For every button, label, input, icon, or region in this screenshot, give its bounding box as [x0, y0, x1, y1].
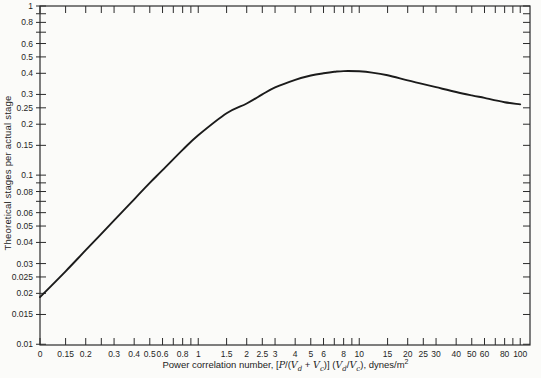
x-axis-title-text: + — [302, 359, 313, 370]
y-tick-label: 0.04 — [16, 237, 33, 247]
x-axis-title-text: ), dynes/m — [360, 359, 404, 370]
plot-svg: 00.150.20.30.40.50.60.811.522.5345681015… — [0, 0, 541, 378]
y-tick-label: 0.2 — [21, 119, 33, 129]
y-tick-label: 1 — [28, 1, 33, 11]
y-tick-label: 0.15 — [16, 140, 33, 150]
y-tick-label: 0.5 — [21, 52, 33, 62]
symbol-Vc: V — [313, 359, 320, 370]
y-tick-label: 0.6 — [21, 39, 33, 49]
superscript-2: 2 — [405, 358, 409, 365]
curve-line — [40, 71, 520, 297]
plot-frame — [40, 6, 530, 345]
y-tick-label: 0.1 — [21, 170, 33, 180]
x-axis-title: Power correlation number, [P/(Vd + Vc)] … — [30, 358, 541, 373]
y-tick-label: 0.4 — [21, 68, 33, 78]
symbol-Vd: V — [291, 359, 298, 370]
chart-figure: 00.150.20.30.40.50.60.811.522.5345681015… — [0, 0, 541, 378]
y-tick-label: 0.25 — [16, 103, 33, 113]
y-tick-label: 0.8 — [21, 17, 33, 27]
y-axis-title: Theoretical stages per actual stage — [2, 68, 16, 278]
y-tick-label: 0.06 — [16, 208, 33, 218]
x-axis-title-text: )] ( — [324, 359, 336, 370]
y-tick-label: 0.08 — [16, 187, 33, 197]
y-tick-label: 0.015 — [12, 309, 34, 319]
x-axis-title-text: Power correlation number, [ — [162, 359, 278, 370]
y-tick-label: 0.01 — [16, 339, 33, 349]
y-tick-label: 0.3 — [21, 89, 33, 99]
y-tick-label: 0.03 — [16, 259, 33, 269]
y-tick-label: 0.05 — [16, 221, 33, 231]
y-tick-label: 0.02 — [16, 288, 33, 298]
